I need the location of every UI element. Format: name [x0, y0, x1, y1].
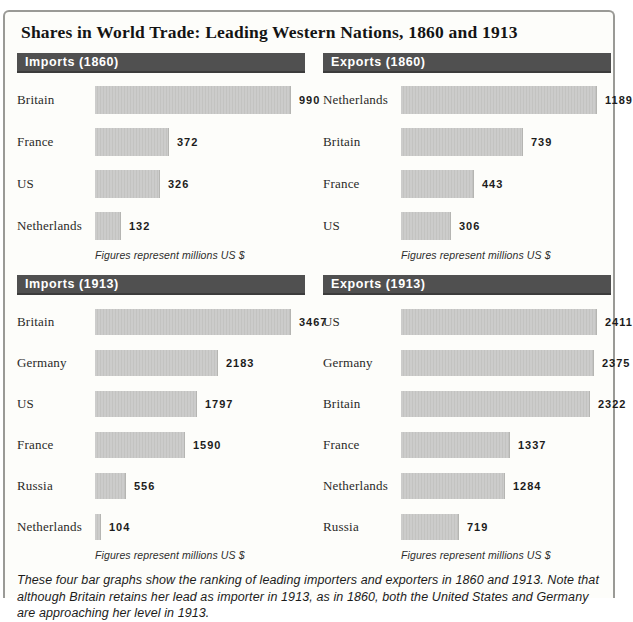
bar-row: Netherlands1284 [323, 465, 611, 506]
country-label: Britain [323, 396, 401, 412]
bar-row: Britain2322 [323, 383, 611, 424]
bar-value: 326 [168, 178, 189, 190]
bar-value: 443 [482, 178, 503, 190]
bar-row: France443 [323, 163, 611, 205]
country-label: Russia [17, 478, 95, 494]
bar-row: Netherlands1189 [323, 79, 611, 121]
bar [95, 309, 291, 335]
bar [401, 514, 459, 540]
country-label: Britain [17, 92, 95, 108]
bar-value: 1189 [605, 94, 633, 106]
bar [95, 170, 160, 198]
bar-row: US306 [323, 205, 611, 247]
bar-value: 739 [531, 136, 552, 148]
country-label: Netherlands [323, 478, 401, 494]
country-label: US [323, 314, 401, 330]
bar-value: 719 [467, 521, 488, 533]
bar-row: Russia719 [323, 506, 611, 547]
bar [401, 391, 590, 417]
country-label: Netherlands [17, 218, 95, 234]
country-label: France [17, 437, 95, 453]
panel-exports-1860: Exports (1860)Netherlands1189Britain739F… [323, 53, 611, 261]
bar-row: Britain3467 [17, 301, 305, 342]
bar [95, 391, 197, 417]
bar-value: 1797 [205, 398, 233, 410]
country-label: France [17, 134, 95, 150]
bar-value: 1284 [513, 480, 541, 492]
bar-row: Germany2183 [17, 342, 305, 383]
country-label: US [17, 176, 95, 192]
country-label: Netherlands [17, 519, 95, 535]
panel-exports-1913: Exports (1913)US2411Germany2375Britain23… [323, 275, 611, 561]
bar-row: US2411 [323, 301, 611, 342]
bar-value: 2411 [605, 316, 633, 328]
bar-row: Russia556 [17, 465, 305, 506]
bar-row: Netherlands104 [17, 506, 305, 547]
bar-row: France1337 [323, 424, 611, 465]
bar-value: 306 [459, 220, 480, 232]
bar-value: 1337 [518, 439, 546, 451]
bar-value: 556 [134, 480, 155, 492]
panel-title-imports-1860: Imports (1860) [17, 53, 305, 73]
bar [401, 350, 594, 376]
panel-footnote: Figures represent millions US $ [401, 549, 611, 561]
bar [95, 473, 126, 499]
bar [401, 473, 505, 499]
bar-value: 1590 [193, 439, 221, 451]
panel-imports-1860: Imports (1860)Britain990France372US326Ne… [17, 53, 305, 261]
bar [401, 170, 474, 198]
country-label: Britain [323, 134, 401, 150]
country-label: Britain [17, 314, 95, 330]
bar-row: France372 [17, 121, 305, 163]
bar-row: Germany2375 [323, 342, 611, 383]
panel-footnote: Figures represent millions US $ [95, 249, 305, 261]
figure-caption: These four bar graphs show the ranking o… [17, 572, 609, 622]
bar [401, 212, 451, 240]
bar [95, 350, 218, 376]
country-label: Germany [323, 355, 401, 371]
bar-row: US326 [17, 163, 305, 205]
bar-value: 2375 [602, 357, 630, 369]
bar-value: 372 [177, 136, 198, 148]
bar-value: 2322 [598, 398, 626, 410]
bar-row: Britain739 [323, 121, 611, 163]
country-label: France [323, 437, 401, 453]
bar [401, 432, 510, 458]
bar [401, 309, 597, 335]
figure-box: Shares in World Trade: Leading Western N… [3, 10, 615, 598]
bar [95, 128, 169, 156]
country-label: Netherlands [323, 92, 401, 108]
bar [95, 86, 291, 114]
bar [95, 432, 185, 458]
panel-title-imports-1913: Imports (1913) [17, 275, 305, 295]
panel-footnote: Figures represent millions US $ [95, 549, 305, 561]
bar-value: 990 [299, 94, 320, 106]
bar [95, 212, 121, 240]
bar [401, 128, 523, 156]
bar-value: 104 [109, 521, 130, 533]
panel-title-exports-1913: Exports (1913) [323, 275, 611, 295]
country-label: US [323, 218, 401, 234]
bar-row: Netherlands132 [17, 205, 305, 247]
country-label: Russia [323, 519, 401, 535]
bar [95, 514, 101, 540]
bar [401, 86, 597, 114]
bar-row: US1797 [17, 383, 305, 424]
country-label: France [323, 176, 401, 192]
panel-imports-1913: Imports (1913)Britain3467Germany2183US17… [17, 275, 305, 561]
panel-footnote: Figures represent millions US $ [401, 249, 611, 261]
bar-value: 2183 [226, 357, 254, 369]
country-label: Germany [17, 355, 95, 371]
panel-title-exports-1860: Exports (1860) [323, 53, 611, 73]
country-label: US [17, 396, 95, 412]
panel-grid: Imports (1860)Britain990France372US326Ne… [17, 53, 603, 561]
figure-title: Shares in World Trade: Leading Western N… [21, 22, 603, 43]
bar-value: 132 [129, 220, 150, 232]
bar-row: France1590 [17, 424, 305, 465]
bar-row: Britain990 [17, 79, 305, 121]
